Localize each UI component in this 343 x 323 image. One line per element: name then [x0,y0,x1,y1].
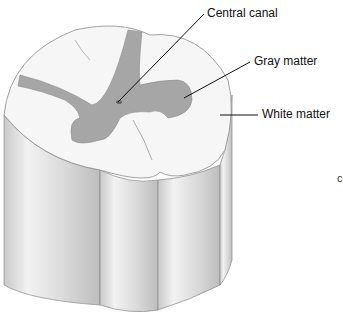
central-canal-label: Central canal [207,6,278,20]
gray-matter-label: Gray matter [254,54,317,68]
stray-text-fragment: c [337,172,343,184]
white-matter-label: White matter [262,107,330,121]
